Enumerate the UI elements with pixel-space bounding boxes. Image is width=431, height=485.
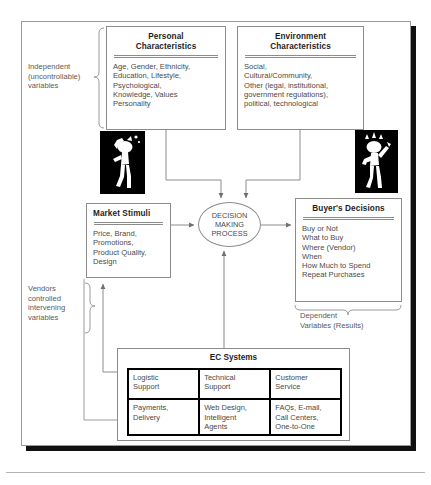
title-divider [303,217,394,220]
box-buyers-decisions: Buyer's Decisions Buy or Not What to Buy… [295,198,402,302]
label-independent-variables: Independent (uncontrollable) variables [28,62,100,91]
title-divider [94,222,163,225]
box-personal-characteristics: Personal Characteristics Age, Gender, Et… [106,26,226,130]
box-personal-body: Age, Gender, Ethnicity, Education, Lifes… [113,62,219,108]
title-divider [114,55,218,58]
ec-cell: FAQs, E-mail, Call Centers, One-to-One [271,400,340,434]
box-environment-body: Social, Cultural/Community, Other (legal… [244,62,357,108]
ec-systems-title: EC Systems [118,353,349,362]
title-divider [245,55,356,58]
ec-cell: Logistic Support [129,370,198,398]
box-environment-characteristics: Environment Characteristics Social, Cult… [237,26,364,130]
label-vendors-controlled-variables: Vendors controlled intervening variables [28,284,88,322]
ec-cell: Web Design, Intelligent Agents [200,400,269,434]
box-buyer-title: Buyer's Decisions [302,204,395,214]
ec-cell: Payments, Delivery [129,400,198,434]
panel-ec-systems: EC Systems Logistic Support Technical Su… [117,348,350,441]
decision-making-process-node: DECISION MAKING PROCESS [198,202,261,247]
box-market-stimuli: Market Stimuli Price, Brand, Promotions,… [86,203,171,278]
decision-oval-label: DECISION MAKING PROCESS [211,211,247,239]
box-environment-title: Environment Characteristics [244,32,357,52]
ec-cell: Customer Service [271,370,340,398]
ec-cell: Technical Support [200,370,269,398]
box-market-title: Market Stimuli [93,209,164,219]
box-market-body: Price, Brand, Promotions, Product Qualit… [93,229,164,266]
box-personal-title: Personal Characteristics [113,32,219,52]
thinking-person-silhouette-icon [100,131,145,194]
box-buyer-body: Buy or Not What to Buy Where (Vendor) Wh… [302,224,395,280]
celebrating-person-silhouette-icon [355,130,398,193]
diagram-canvas: Personal Characteristics Age, Gender, Et… [0,0,431,485]
label-dependent-variables: Dependent Variables (Results) [300,311,400,330]
ec-systems-grid: Logistic Support Technical Support Custo… [127,368,342,436]
